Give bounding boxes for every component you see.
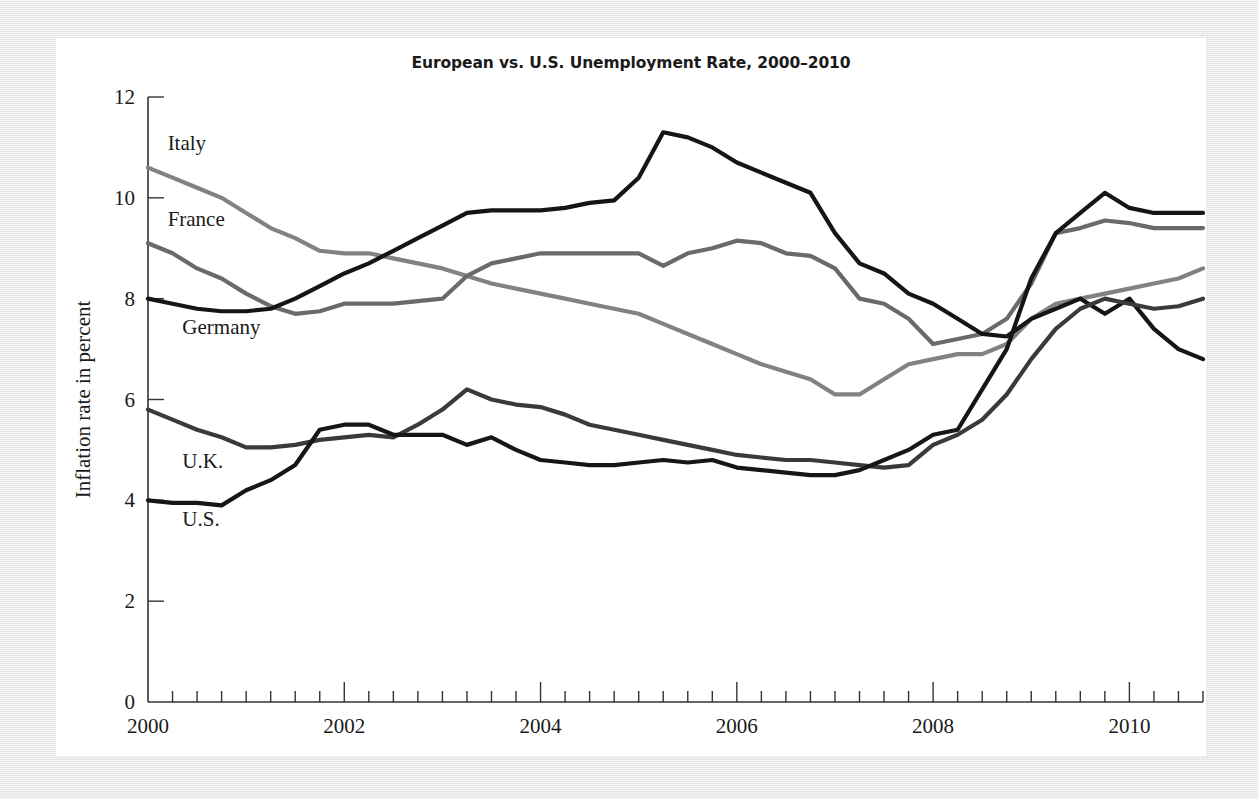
y-tick-label: 6 <box>125 388 136 412</box>
y-axis-title: Inflation rate in percent <box>71 301 95 499</box>
x-tick-label: 2008 <box>912 714 954 738</box>
series-label-france: France <box>168 207 225 231</box>
series-line-italy[interactable] <box>148 168 1203 395</box>
series-line-france[interactable] <box>148 221 1203 345</box>
series-group <box>148 132 1203 505</box>
y-tick-label: 10 <box>114 186 135 210</box>
series-label-germany: Germany <box>182 315 261 339</box>
x-tick-label: 2010 <box>1108 714 1150 738</box>
series-labels-group: ItalyFranceGermanyU.K.U.S. <box>168 131 261 531</box>
y-tick-label: 8 <box>125 287 136 311</box>
series-label-italy: Italy <box>168 131 207 155</box>
series-line-us[interactable] <box>148 193 1203 506</box>
x-tick-label: 2000 <box>127 714 169 738</box>
x-tick-label: 2002 <box>323 714 365 738</box>
y-tick-label: 12 <box>114 85 135 109</box>
y-tick-label: 2 <box>125 589 136 613</box>
y-tick-label: 4 <box>125 488 136 512</box>
x-tick-label: 2006 <box>716 714 758 738</box>
series-line-uk[interactable] <box>148 299 1203 468</box>
line-chart: 024681012200020022004200620082010Inflati… <box>56 38 1206 756</box>
x-tick-label: 2004 <box>520 714 563 738</box>
series-label-uk: U.K. <box>182 449 223 473</box>
axes-group: 024681012200020022004200620082010Inflati… <box>71 85 1203 738</box>
figure-panel: European vs. U.S. Unemployment Rate, 200… <box>56 38 1206 756</box>
series-label-us: U.S. <box>182 507 219 531</box>
y-tick-label: 0 <box>125 690 136 714</box>
